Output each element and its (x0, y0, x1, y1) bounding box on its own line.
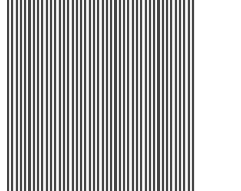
vertical-stripe-pattern (7, 0, 195, 191)
image-canvas (0, 0, 241, 191)
